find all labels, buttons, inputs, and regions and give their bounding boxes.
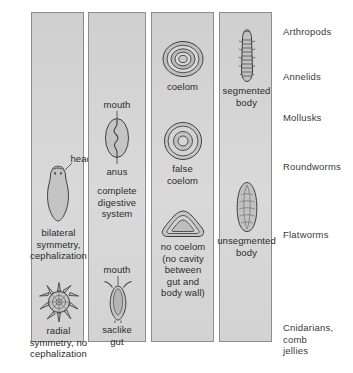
acoelomate-cross-section-icon xyxy=(159,209,207,239)
caption-coelom: coelom xyxy=(152,81,213,93)
segmented-body-icon xyxy=(237,29,257,84)
caption-complete-digestive: complete digestive system xyxy=(87,185,147,220)
caption-bilateral: bilateral symmetry, cephalization xyxy=(25,227,92,262)
caption-saclike-gut: saclike gut xyxy=(87,324,147,347)
caption-segmented: segmented body xyxy=(216,85,277,108)
unsegmented-body-icon xyxy=(234,181,260,233)
coelom-cross-section-icon xyxy=(162,39,204,79)
panel-segmentation: segmented body unsegmented body xyxy=(219,12,272,342)
panel-coelom: coelom false coelom no coelom (no cavity… xyxy=(151,12,214,342)
label-anus-complete: anus xyxy=(89,166,145,178)
group-label-mollusks: Mollusks xyxy=(283,112,322,124)
label-mouth-sac: mouth xyxy=(89,264,145,276)
panel-digestion: mouth anus complete digestive system mou… xyxy=(88,12,146,342)
group-label-arthropods: Arthropods xyxy=(283,26,331,38)
label-mouth-complete: mouth xyxy=(89,99,145,111)
caption-no-coelom: no coelom (no cavity between gut and bod… xyxy=(151,241,215,299)
caption-radial: radial symmetry, no cephalization xyxy=(23,325,94,360)
caption-false-coelom: false coelom xyxy=(152,163,213,186)
group-label-roundworms: Roundworms xyxy=(283,161,341,173)
complete-digestive-tract-icon xyxy=(103,111,131,165)
caption-unsegmented: unsegmented body xyxy=(212,235,281,258)
radial-organism-icon xyxy=(38,281,80,323)
pseudocoelom-cross-section-icon xyxy=(163,121,203,161)
panel-symmetry: head bilateral symmetry, cephalization xyxy=(31,12,84,342)
saclike-gut-icon xyxy=(102,276,134,324)
group-label-annelids: Annelids xyxy=(283,71,321,83)
group-label-cnidarians: Cnidarians, comb jellies xyxy=(283,322,333,357)
head-label: head xyxy=(38,153,92,165)
group-label-flatworms: Flatworms xyxy=(283,229,329,241)
